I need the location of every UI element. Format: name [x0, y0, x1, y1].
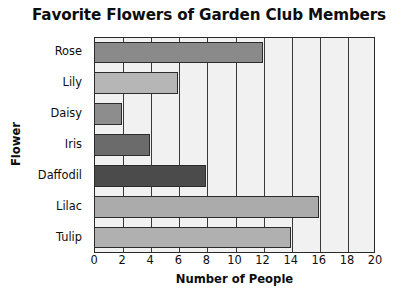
bar-row — [94, 165, 375, 187]
x-axis-tick-8: 8 — [203, 255, 210, 266]
x-axis-tick-18: 18 — [340, 255, 355, 266]
bar-tulip[interactable] — [94, 227, 291, 249]
bar-lilac[interactable] — [94, 196, 319, 218]
x-axis-tick-14: 14 — [283, 255, 298, 266]
y-axis-title: Flower — [9, 99, 23, 189]
x-axis-tick-20: 20 — [368, 255, 383, 266]
x-axis-tick-2: 2 — [118, 255, 125, 266]
y-axis-label-daisy: Daisy — [50, 108, 82, 119]
x-axis-tick-0: 0 — [90, 255, 97, 266]
y-axis-label-lilac: Lilac — [56, 201, 82, 212]
y-axis-label-iris: Iris — [65, 139, 82, 150]
bar-daisy[interactable] — [94, 103, 122, 125]
x-axis-tick-12: 12 — [255, 255, 270, 266]
bar-row — [94, 103, 375, 125]
x-axis-tick-16: 16 — [312, 255, 327, 266]
bar-chart: Favorite Flowers of Garden Club Members … — [0, 0, 418, 301]
bar-iris[interactable] — [94, 134, 150, 156]
y-axis-label-rose: Rose — [55, 46, 82, 57]
bar-row — [94, 227, 375, 249]
bar-row — [94, 196, 375, 218]
bar-row — [94, 134, 375, 156]
x-axis-tick-4: 4 — [147, 255, 154, 266]
bar-row — [94, 72, 375, 94]
x-axis-tick-labels: 02468101214161820 — [94, 255, 375, 273]
y-axis-label-lily: Lily — [63, 77, 82, 88]
bar-lily[interactable] — [94, 72, 178, 94]
y-axis-label-daffodil: Daffodil — [38, 170, 82, 181]
bars-layer — [94, 37, 375, 253]
x-axis-tick-10: 10 — [227, 255, 242, 266]
x-axis-title: Number of People — [94, 272, 375, 286]
chart-title: Favorite Flowers of Garden Club Members — [0, 6, 418, 24]
x-axis-tick-6: 6 — [175, 255, 182, 266]
y-axis-label-tulip: Tulip — [56, 232, 82, 243]
bar-rose[interactable] — [94, 42, 263, 64]
bar-row — [94, 42, 375, 64]
bar-daffodil[interactable] — [94, 165, 206, 187]
